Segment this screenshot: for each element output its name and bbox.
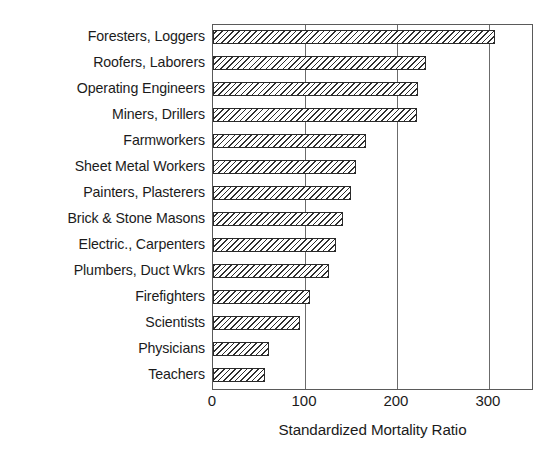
x-tick-label: 200: [383, 392, 408, 410]
category-label: Brick & Stone Masons: [67, 211, 205, 225]
bar: [213, 316, 300, 330]
category-label: Miners, Drillers: [112, 107, 205, 121]
bar: [213, 238, 336, 252]
bar: [213, 186, 351, 200]
x-tick-label: 0: [208, 392, 216, 410]
bar: [213, 290, 310, 304]
bar: [213, 212, 343, 226]
plot-area: [212, 24, 533, 390]
gridline-300: [489, 25, 490, 389]
bar: [213, 56, 426, 70]
category-label: Scientists: [145, 315, 205, 329]
category-label: Physicians: [138, 341, 205, 355]
x-tick-label: 100: [291, 392, 316, 410]
category-label: Roofers, Laborers: [93, 55, 205, 69]
category-label: Farmworkers: [123, 133, 205, 147]
category-label: Operating Engineers: [77, 81, 205, 95]
category-label: Teachers: [148, 367, 205, 381]
category-label: Foresters, Loggers: [88, 29, 205, 43]
bar: [213, 264, 329, 278]
bar: [213, 368, 265, 382]
gridline-200: [397, 25, 398, 389]
bar-chart: Foresters, LoggersRoofers, LaborersOpera…: [0, 0, 558, 465]
category-label: Painters, Plasterers: [83, 185, 205, 199]
bar: [213, 30, 495, 44]
bar: [213, 108, 417, 122]
x-axis-title: Standardized Mortality Ratio: [212, 421, 533, 438]
bar: [213, 82, 418, 96]
bar: [213, 134, 366, 148]
x-tick-label: 300: [475, 392, 500, 410]
category-label: Sheet Metal Workers: [75, 159, 205, 173]
category-label: Firefighters: [135, 289, 205, 303]
category-label: Electric., Carpenters: [79, 237, 205, 251]
x-axis-tick-labels: 0100200300: [0, 392, 558, 414]
gridline-100: [305, 25, 306, 389]
bar: [213, 342, 269, 356]
bar: [213, 160, 356, 174]
y-axis-category-labels: Foresters, LoggersRoofers, LaborersOpera…: [0, 26, 209, 390]
category-label: Plumbers, Duct Wkrs: [74, 263, 205, 277]
